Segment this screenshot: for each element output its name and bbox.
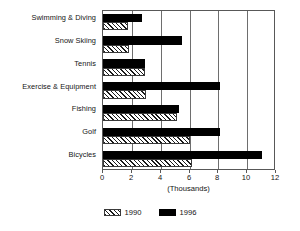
legend-label-1990: 1990	[125, 208, 142, 217]
bar-1996-2	[103, 59, 145, 67]
hatch-swatch-icon	[104, 209, 121, 216]
bar-1990-1	[103, 45, 129, 53]
y-axis-label-0: Swimming & Diving	[0, 14, 96, 22]
legend-label-1996: 1996	[180, 208, 197, 217]
y-axis-category-labels: Swimming & Diving Snow Skiing Tennis Exe…	[0, 10, 99, 170]
x-axis-title: (Thousands)	[102, 184, 275, 193]
gridline-10	[247, 11, 248, 169]
x-tick-label-10: 10	[234, 173, 258, 182]
x-axis: 024681012	[102, 170, 275, 182]
y-axis-label-2: Tennis	[0, 60, 96, 68]
bar-1996-0	[103, 14, 142, 22]
x-tick-label-8: 8	[205, 173, 229, 182]
bar-1990-6	[103, 159, 192, 167]
chart-legend: 1990 1996	[0, 205, 300, 219]
bar-chart: Swimming & Diving Snow Skiing Tennis Exe…	[0, 0, 300, 231]
bar-1996-1	[103, 36, 182, 44]
legend-item-1990: 1990	[104, 208, 142, 217]
solid-swatch-icon	[159, 209, 176, 216]
bar-1990-2	[103, 68, 145, 76]
bar-1996-3	[103, 82, 220, 90]
bar-1990-3	[103, 90, 146, 98]
bar-1990-4	[103, 113, 177, 121]
bar-1996-4	[103, 105, 179, 113]
x-tick-label-0: 0	[90, 173, 114, 182]
bar-1990-5	[103, 136, 190, 144]
y-axis-label-5: Golf	[0, 128, 96, 136]
bar-1996-6	[103, 151, 262, 159]
legend-item-1996: 1996	[159, 208, 197, 217]
x-tick-label-6: 6	[177, 173, 201, 182]
y-axis-label-4: Fishing	[0, 105, 96, 113]
bar-1990-0	[103, 22, 128, 30]
y-axis-label-1: Snow Skiing	[0, 37, 96, 45]
x-tick-label-2: 2	[119, 173, 143, 182]
y-axis-label-6: Bicycles	[0, 151, 96, 159]
plot-area	[102, 10, 275, 170]
x-tick-label-4: 4	[148, 173, 172, 182]
x-tick-label-12: 12	[263, 173, 287, 182]
bar-1996-5	[103, 128, 220, 136]
y-axis-label-3: Exercise & Equipment	[0, 83, 96, 91]
